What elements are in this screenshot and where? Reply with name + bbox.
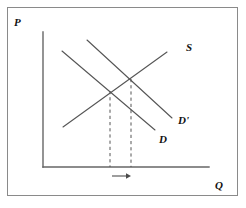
diagram-canvas: P Q S D' D	[0, 0, 246, 208]
price-axis-label: P	[14, 16, 21, 28]
supply-demand-figure: P Q S D' D	[0, 0, 246, 208]
quantity-axis-label: Q	[215, 179, 223, 191]
demand-shifted-curve-label: D'	[177, 114, 189, 126]
demand-curve-label: D	[158, 133, 167, 145]
supply-curve-label: S	[186, 41, 192, 53]
